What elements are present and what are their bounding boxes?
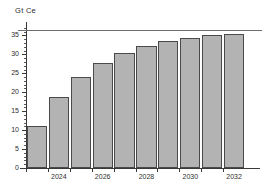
y-minor-tick [24,47,26,48]
x-tick [70,168,71,172]
plot-area: 05101520253035 20242026202820302032 [26,26,256,168]
y-minor-tick [24,107,26,108]
y-minor-tick [24,134,26,135]
x-tick-label: 2026 [95,173,111,180]
y-tick-label: 5 [15,145,19,152]
reference-line [18,30,262,31]
y-minor-tick [24,96,26,97]
y-major-tick [22,73,26,74]
bar [71,77,91,168]
y-minor-tick [24,81,26,82]
x-tick [48,168,49,172]
y-minor-tick [24,160,26,161]
y-tick-label: 0 [15,164,19,171]
y-minor-tick [24,123,26,124]
x-tick [201,168,202,172]
bar-chart: Gt Ce 05101520253035 2024202620282030203… [0,0,264,189]
y-minor-tick [24,39,26,40]
y-minor-tick [24,164,26,165]
y-tick-label: 10 [11,126,19,133]
y-minor-tick [24,141,26,142]
y-major-tick [22,149,26,150]
y-minor-tick [24,85,26,86]
y-minor-tick [24,100,26,101]
bar [27,126,47,168]
y-minor-tick [24,145,26,146]
y-minor-tick [24,153,26,154]
bar [180,38,200,168]
y-major-tick [22,111,26,112]
y-minor-tick [24,51,26,52]
y-minor-tick [24,70,26,71]
y-minor-tick [24,77,26,78]
y-major-tick [22,130,26,131]
y-major-tick [22,54,26,55]
y-minor-tick [24,119,26,120]
y-minor-tick [24,126,26,127]
y-major-tick [22,35,26,36]
y-tick-label: 25 [11,69,19,76]
y-minor-tick [24,62,26,63]
bar [136,46,156,168]
y-minor-tick [24,88,26,89]
x-tick [26,168,27,172]
y-major-tick [22,92,26,93]
x-tick [92,168,93,172]
bar [93,63,113,168]
x-tick-label: 2030 [182,173,198,180]
x-tick [114,168,115,172]
bar [202,35,222,168]
bar [224,34,244,168]
x-tick-label: 2028 [139,173,155,180]
y-axis-title: Gt Ce [15,6,36,15]
y-minor-tick [24,66,26,67]
y-minor-tick [24,138,26,139]
y-minor-tick [24,104,26,105]
x-tick [136,168,137,172]
y-tick-label: 15 [11,107,19,114]
y-minor-tick [24,115,26,116]
bar [158,41,178,168]
y-tick-label: 35 [11,31,19,38]
y-minor-tick [24,58,26,59]
x-tick [223,168,224,172]
y-tick-label: 20 [11,88,19,95]
y-minor-tick [24,43,26,44]
x-tick-label: 2032 [226,173,242,180]
y-minor-tick [24,157,26,158]
x-tick-label: 2024 [51,173,67,180]
y-tick-label: 30 [11,50,19,57]
x-tick [157,168,158,172]
bar [49,97,69,168]
y-minor-tick [24,28,26,29]
x-tick [179,168,180,172]
y-minor-tick [24,32,26,33]
bar [114,53,134,168]
